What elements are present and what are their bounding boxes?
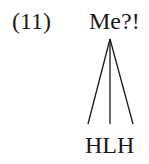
association-line-right <box>110 39 133 124</box>
association-line-left <box>88 39 110 124</box>
tone-melody: HLH <box>85 133 134 157</box>
